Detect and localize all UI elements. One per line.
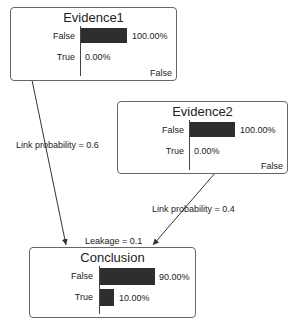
probability-value: 90.00% (159, 272, 190, 282)
link-arrow-evidence1-conclusion[interactable] (32, 80, 66, 245)
state-row-false[interactable]: False 90.00% (30, 268, 195, 284)
state-row-true[interactable]: True 0.00% (118, 143, 287, 159)
node-evidence1[interactable]: Evidence1 False 100.00% True 0.00% False (10, 7, 177, 81)
node-title: Evidence1 (11, 10, 176, 25)
node-evidence2[interactable]: Evidence2 False 100.00% True 0.00% False (117, 101, 288, 174)
node-title: Evidence2 (118, 104, 287, 119)
link-label-evidence2: Link probability = 0.4 (152, 204, 235, 214)
state-row-true[interactable]: True 0.00% (11, 49, 176, 65)
node-conclusion[interactable]: Conclusion False 90.00% True 10.00% (29, 247, 196, 318)
node-title: Conclusion (30, 250, 195, 265)
state-row-false[interactable]: False 100.00% (118, 122, 287, 138)
observed-state: False (150, 68, 172, 78)
state-label: False (33, 271, 93, 281)
leakage-label: Leakage = 0.1 (85, 236, 142, 246)
state-label: False (15, 31, 75, 41)
probability-value: 0.00% (194, 146, 220, 156)
probability-value: 0.00% (85, 52, 111, 62)
probability-value: 10.00% (119, 293, 150, 303)
state-label: False (124, 125, 184, 135)
probability-value: 100.00% (132, 31, 168, 41)
probability-bar (100, 268, 155, 285)
observed-state: False (261, 161, 283, 171)
probability-bar (100, 289, 114, 306)
state-row-true[interactable]: True 10.00% (30, 289, 195, 305)
probability-value: 100.00% (240, 125, 276, 135)
probability-bar (81, 28, 127, 43)
state-label: True (15, 52, 75, 62)
state-row-false[interactable]: False 100.00% (11, 28, 176, 44)
probability-bar (190, 122, 235, 137)
state-label: True (124, 146, 184, 156)
state-label: True (33, 292, 93, 302)
link-label-evidence1: Link probability = 0.6 (16, 140, 99, 150)
